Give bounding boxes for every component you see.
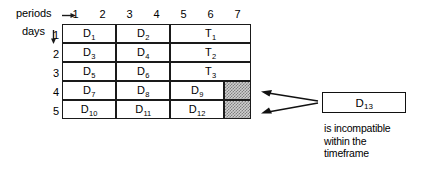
cell-subscript: 1 [91, 33, 95, 42]
days-axis-label: days [22, 26, 45, 37]
callout-caption: is incompatible within the timeframe [324, 122, 434, 160]
caption-line-3: timeframe [324, 147, 434, 160]
caption-line-2: within the [324, 135, 434, 148]
column-header-1: 1 [69, 8, 83, 20]
callout-box-subscript: 13 [364, 102, 373, 111]
grid-cell-blocked-r5 [224, 100, 251, 119]
cell-base: D [135, 103, 143, 115]
grid-cell-D3: D3 [62, 43, 116, 62]
callout-box-label: D13 [355, 97, 372, 109]
cell-subscript: 3 [212, 71, 216, 80]
cell-label: T3 [205, 65, 216, 77]
column-header-3: 3 [123, 8, 137, 20]
grid-cell-D11: D11 [116, 100, 170, 119]
cell-base: D [83, 84, 91, 96]
cell-label: D1 [83, 27, 95, 39]
grid-cell-D1: D1 [62, 24, 116, 43]
cell-base: D [137, 46, 145, 58]
cell-subscript: 3 [91, 52, 95, 61]
cell-subscript: 7 [91, 90, 95, 99]
column-header-4: 4 [150, 8, 164, 20]
grid-cell-T1: T1 [170, 24, 251, 43]
column-header-5: 5 [177, 8, 191, 20]
grid-cell-D4: D4 [116, 43, 170, 62]
cell-subscript: 12 [197, 109, 205, 118]
row-header-5: 5 [47, 105, 59, 117]
row-header-3: 3 [47, 67, 59, 79]
cell-subscript: 8 [145, 90, 149, 99]
cell-subscript: 10 [89, 109, 97, 118]
cell-subscript: 11 [143, 109, 151, 118]
cell-base: T [205, 46, 212, 58]
periods-axis-label: periods [16, 8, 51, 19]
cell-subscript: 2 [145, 33, 149, 42]
grid-cell-D2: D2 [116, 24, 170, 43]
cell-base: D [83, 46, 91, 58]
cell-subscript: 1 [212, 33, 216, 42]
grid-cell-D8: D8 [116, 81, 170, 100]
cell-label: D2 [137, 27, 149, 39]
column-header-2: 2 [96, 8, 110, 20]
caption-line-1: is incompatible [324, 122, 434, 135]
cell-label: D5 [83, 65, 95, 77]
cell-label: D10 [81, 103, 97, 115]
cell-label: D11 [135, 103, 151, 115]
cell-label: D12 [189, 103, 205, 115]
cell-subscript: 2 [212, 52, 216, 61]
cell-label: D3 [83, 46, 95, 58]
grid-cell-D7: D7 [62, 81, 116, 100]
cell-label: D7 [83, 84, 95, 96]
cell-label: D9 [191, 84, 203, 96]
callout-box-base: D [355, 97, 363, 109]
grid-cell-D6: D6 [116, 62, 170, 81]
cell-label: T1 [205, 27, 216, 39]
cell-subscript: 6 [145, 71, 149, 80]
cell-base: D [81, 103, 89, 115]
cell-base: D [189, 103, 197, 115]
grid-cell-blocked-r4 [224, 81, 251, 100]
column-header-7: 7 [231, 8, 245, 20]
cell-subscript: 4 [145, 52, 149, 61]
column-header-6: 6 [204, 8, 218, 20]
cell-label: T2 [205, 46, 216, 58]
cell-base: D [83, 65, 91, 77]
cell-base: T [205, 65, 212, 77]
grid-cell-T3: T3 [170, 62, 251, 81]
cell-label: D4 [137, 46, 149, 58]
cell-base: D [191, 84, 199, 96]
cell-label: D6 [137, 65, 149, 77]
grid-cell-D12: D12 [170, 100, 224, 119]
row-header-4: 4 [47, 86, 59, 98]
schedule-grid: D1D2T1D3D4T2D5D6T3D7D8D9D10D11D12 [62, 24, 251, 119]
grid-cell-D10: D10 [62, 100, 116, 119]
callout-box-d13: D13 [322, 92, 406, 113]
row-header-1: 1 [47, 29, 59, 41]
cell-base: D [83, 27, 91, 39]
cell-base: D [137, 65, 145, 77]
cell-base: D [137, 84, 145, 96]
cell-base: T [205, 27, 212, 39]
cell-subscript: 5 [91, 71, 95, 80]
cell-base: D [137, 27, 145, 39]
grid-cell-D5: D5 [62, 62, 116, 81]
cell-subscript: 9 [199, 90, 203, 99]
grid-cell-D9: D9 [170, 81, 224, 100]
row-header-2: 2 [47, 48, 59, 60]
grid-cell-T2: T2 [170, 43, 251, 62]
cell-label: D8 [137, 84, 149, 96]
